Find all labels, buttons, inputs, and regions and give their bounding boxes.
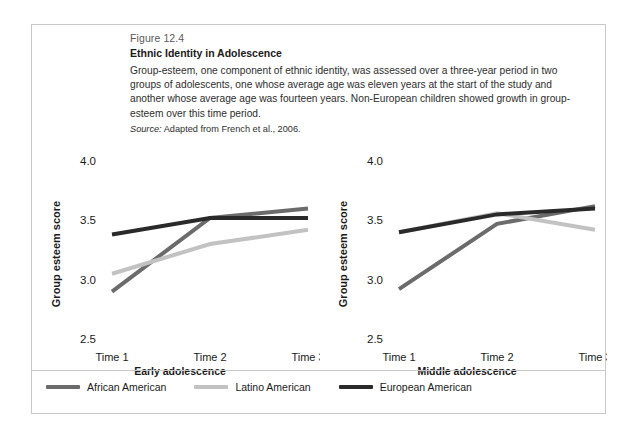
x-axis-tick-label-0: Time 2: [193, 351, 226, 363]
legend-label: Latino American: [235, 381, 310, 393]
chart-middle-adolescence: 2.53.03.54.0Group esteem scoreTime 1Time…: [327, 143, 607, 368]
chart-middle-svg: 2.53.03.54.0Group esteem scoreTime 1Time…: [327, 143, 607, 368]
y-axis-title-1: Group esteem score: [337, 201, 349, 307]
series-line-african-american: [112, 208, 308, 291]
x-axis-tick-label-0: Time 1: [95, 351, 128, 363]
y-axis-title-0: Group esteem score: [50, 201, 62, 307]
legend-item-african-american: African American: [46, 381, 166, 393]
y-axis-tick-label-0: 3.5: [80, 214, 96, 226]
figure-title: Ethnic Identity in Adolescence: [130, 46, 585, 61]
figure-number: Figure 12.4: [130, 31, 585, 45]
y-axis-tick-label-1: 4.0: [367, 155, 383, 167]
y-axis-tick-label-0: 3.0: [80, 274, 96, 286]
figure-caption-block: Figure 12.4 Ethnic Identity in Adolescen…: [130, 31, 585, 136]
y-axis-tick-label-1: 2.5: [367, 333, 383, 345]
legend-label: European American: [380, 381, 472, 393]
x-axis-tick-label-1: Time 1: [382, 351, 415, 363]
y-axis-tick-label-1: 3.0: [367, 274, 383, 286]
x-axis-tick-label-0: Time 3: [291, 351, 320, 363]
chart-early-adolescence: 2.53.03.54.0Group esteem scoreTime 1Time…: [40, 143, 320, 368]
chart-early-axis-title: Early adolescence: [40, 365, 320, 377]
figure-description: Group-esteem, one component of ethnic id…: [130, 64, 585, 121]
figure-source-label: Source:: [130, 124, 162, 134]
legend-swatch-icon: [194, 385, 228, 389]
y-axis-tick-label-0: 2.5: [80, 333, 96, 345]
y-axis-tick-label-1: 3.5: [367, 214, 383, 226]
series-line-african-american: [399, 206, 595, 289]
figure-source-text: Adapted from French et al., 2006.: [164, 124, 301, 134]
legend-item-latino-american: Latino American: [194, 381, 310, 393]
chart-early-svg: 2.53.03.54.0Group esteem scoreTime 1Time…: [40, 143, 320, 368]
x-axis-tick-label-1: Time 2: [480, 351, 513, 363]
figure-panel: Figure 12.4 Ethnic Identity in Adolescen…: [31, 24, 606, 414]
y-axis-tick-label-0: 4.0: [80, 155, 96, 167]
legend-swatch-icon: [46, 385, 80, 389]
legend-label: African American: [87, 381, 166, 393]
legend-divider: [32, 370, 605, 371]
legend-item-european-american: European American: [339, 381, 472, 393]
x-axis-tick-label-1: Time 3: [578, 351, 607, 363]
figure-source: Source: Adapted from French et al., 2006…: [130, 123, 585, 136]
chart-legend: African AmericanLatino AmericanEuropean …: [46, 381, 500, 393]
legend-swatch-icon: [339, 385, 373, 389]
chart-middle-axis-title: Middle adolescence: [327, 365, 607, 377]
